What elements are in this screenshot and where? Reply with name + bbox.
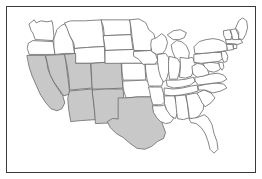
state-washington[interactable] — [29, 20, 54, 41]
state-pennsylvania[interactable] — [194, 52, 223, 63]
state-florida[interactable] — [189, 115, 218, 154]
state-oregon[interactable] — [27, 41, 55, 55]
us-choropleth-map — [7, 7, 255, 172]
state-north-dakota[interactable] — [101, 20, 131, 36]
state-arizona[interactable] — [68, 89, 96, 122]
state-south-dakota[interactable] — [103, 35, 133, 51]
state-connecticut[interactable] — [227, 45, 234, 51]
state-vermont[interactable] — [224, 30, 232, 40]
state-new-jersey[interactable] — [222, 51, 228, 62]
state-colorado[interactable] — [91, 62, 123, 89]
states-layer — [27, 18, 247, 153]
state-indiana[interactable] — [169, 56, 181, 79]
state-kansas[interactable] — [122, 63, 146, 80]
state-new-york[interactable] — [194, 39, 228, 54]
map-figure — [0, 0, 262, 179]
state-rhode-island[interactable] — [234, 45, 237, 49]
state-wyoming[interactable] — [75, 47, 106, 64]
map-frame-border — [6, 6, 256, 173]
